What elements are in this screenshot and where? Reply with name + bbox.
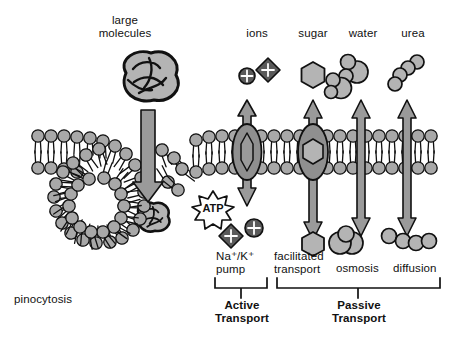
- passive-transport-bracket: [277, 278, 440, 298]
- facilitated-transport-channel: [298, 100, 328, 240]
- label-urea: urea: [390, 27, 436, 40]
- label-sugar: sugar: [290, 27, 336, 40]
- ion-sphere-plus-top: [239, 68, 255, 84]
- label-large-molecules: large molecules: [82, 14, 168, 40]
- label-diffusion: diffusion: [393, 262, 449, 275]
- label-osmosis: osmosis: [336, 262, 392, 275]
- ion-sphere-plus-bottom: [245, 219, 263, 237]
- label-na-k-pump: Na⁺/K⁺ pump: [216, 250, 282, 276]
- transport-diagram: ATP: [0, 0, 463, 342]
- label-passive-transport: Passive Transport: [328, 299, 390, 325]
- label-ions: ions: [234, 27, 280, 40]
- svg-text:ATP: ATP: [202, 202, 223, 214]
- sugar-hexagon-top: [302, 62, 325, 88]
- active-transport-bracket: [215, 278, 267, 298]
- endocytosis-arrow: [133, 110, 163, 202]
- ion-diamond-plus-top: [256, 58, 280, 82]
- pinocytosis-vesicle: [47, 138, 200, 250]
- diagram-artwork: ATP: [0, 0, 463, 342]
- atp-starburst: ATP: [192, 191, 234, 229]
- label-active-transport: Active Transport: [212, 299, 272, 325]
- label-water: water: [338, 27, 388, 40]
- urea-molecule-chain-top: [388, 55, 424, 91]
- na-k-pump-channel: [233, 100, 262, 206]
- ion-diamond-plus-bottom: [219, 224, 243, 248]
- large-molecule-icon: [124, 52, 178, 101]
- label-pinocytosis: pinocytosis: [14, 293, 104, 306]
